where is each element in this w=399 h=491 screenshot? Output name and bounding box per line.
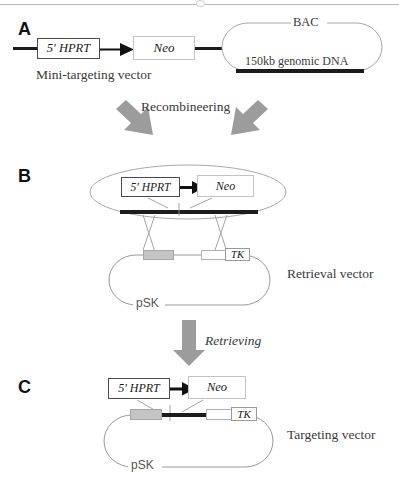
figure-canvas: A 5' HPRT Neo Mini-targeting vector BAC … — [0, 0, 399, 491]
targeting-vector-plasmid — [0, 0, 399, 491]
psk-label: pSK — [131, 459, 154, 471]
targeting-vector-caption: Targeting vector — [287, 428, 375, 442]
left-homology-arm-box — [130, 409, 162, 420]
tk-box: TK — [231, 407, 257, 421]
